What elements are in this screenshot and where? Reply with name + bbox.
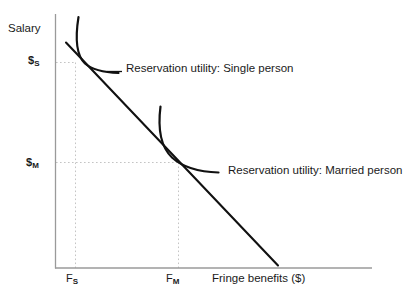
y-axis-title: Salary (8, 22, 41, 35)
plot-canvas (0, 0, 419, 297)
y-tick-salary-single: $S (28, 54, 39, 67)
isoprofit-budget-line (66, 43, 278, 266)
married-curve-label: Reservation utility: Married person (228, 164, 403, 177)
y-tick-salary-married-sub: M (32, 161, 39, 170)
x-tick-fringe-single-main: F (66, 272, 73, 284)
x-tick-fringe-single: FS (66, 272, 78, 285)
y-tick-salary-married: $M (26, 156, 39, 169)
axes (55, 14, 372, 269)
x-tick-fringe-married-sub: M (173, 277, 180, 286)
single-curve-label: Reservation utility: Single person (126, 62, 293, 75)
x-axis-title: Fringe benefits ($) (212, 272, 305, 285)
reservation-utility-figure: Salary $S $M FS FM Fringe benefits ($) R… (0, 0, 419, 297)
guide-lines (56, 63, 179, 269)
x-tick-fringe-married: FM (166, 272, 179, 285)
reservation-utility-single-curve (77, 17, 119, 73)
x-tick-fringe-married-main: F (166, 272, 173, 284)
y-tick-salary-single-sub: S (34, 59, 39, 68)
x-tick-fringe-single-sub: S (73, 277, 78, 286)
